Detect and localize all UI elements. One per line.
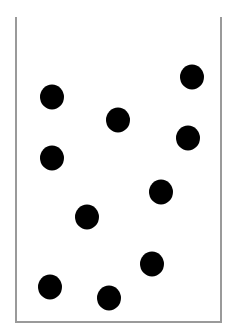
particle-dot: [40, 85, 64, 110]
particle-dot: [176, 126, 200, 151]
particle-dot: [97, 286, 121, 311]
particle-dot: [140, 252, 164, 277]
particle-dot: [180, 65, 204, 90]
particle-dot: [75, 205, 99, 230]
particle-dot: [106, 108, 130, 133]
particle-dot: [149, 180, 173, 205]
particle-dot: [38, 275, 62, 300]
particle-dot: [40, 146, 64, 171]
